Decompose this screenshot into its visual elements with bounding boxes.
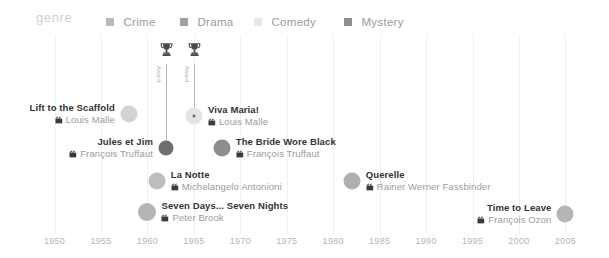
clapperboard-icon: [161, 213, 169, 221]
film-title: Lift to the Scaffold: [29, 102, 114, 114]
x-tick-label: 1995: [462, 236, 483, 246]
film-title: La Notte: [171, 169, 282, 181]
clapperboard-icon: [236, 149, 244, 157]
x-tick-label: 1975: [276, 236, 297, 246]
gridline: [101, 34, 102, 234]
data-point-label: Viva Maria!Louis Malle: [208, 104, 268, 128]
film-director-name: François Truffaut: [80, 148, 153, 159]
film-director-name: Rainer Werner Fassbinder: [377, 181, 491, 192]
film-director-name: Peter Brook: [172, 212, 223, 223]
film-director: Louis Malle: [208, 116, 268, 128]
legend-title: genre: [36, 10, 72, 25]
x-tick-label: 1955: [90, 236, 111, 246]
data-point-label: Time to LeaveFrançois Ozon: [477, 202, 551, 226]
data-point-label: The Bride Wore BlackFrançois Truffaut: [236, 136, 336, 160]
clapperboard-icon: [69, 149, 77, 157]
data-point-label: Jules et JimFrançois Truffaut: [69, 136, 153, 160]
film-director: Peter Brook: [161, 212, 288, 224]
film-director: Louis Malle: [29, 114, 114, 126]
x-tick-label: 2000: [508, 236, 529, 246]
legend-swatch-crime: [106, 18, 114, 26]
x-tick-label: 1960: [137, 236, 158, 246]
trophy-icon: [160, 42, 173, 57]
film-title: The Bride Wore Black: [236, 136, 336, 148]
scatter-plot-area: AwardAward Lift to the ScaffoldLouis Mal…: [0, 34, 609, 234]
gridline: [55, 34, 56, 234]
legend-swatch-comedy: [254, 18, 262, 26]
film-title: Time to Leave: [477, 202, 551, 214]
clapperboard-icon: [208, 117, 216, 125]
x-axis: 1950195519601965197019751980198519901995…: [0, 234, 609, 258]
clapperboard-icon: [366, 182, 374, 190]
data-point-core: [192, 115, 195, 118]
film-director: François Truffaut: [69, 148, 153, 160]
legend-label-comedy: Comedy: [271, 16, 316, 28]
trophy-icon: [188, 42, 201, 57]
data-point-dot[interactable]: [213, 140, 230, 157]
award-label: Award: [184, 66, 190, 83]
award-drop-line: [166, 64, 167, 148]
x-tick-label: 1980: [323, 236, 344, 246]
film-title: Viva Maria!: [208, 104, 268, 116]
film-director-name: François Ozon: [488, 214, 551, 225]
x-tick-label: 1970: [230, 236, 251, 246]
film-director-name: François Truffaut: [247, 148, 320, 159]
award-label: Award: [156, 66, 162, 83]
gridline: [426, 34, 427, 234]
gridline: [333, 34, 334, 234]
x-tick-label: 1950: [44, 236, 65, 246]
legend-label-crime: Crime: [123, 16, 155, 28]
data-point-label: La NotteMichelangelo Antonioni: [171, 169, 282, 193]
data-point-dot[interactable]: [343, 173, 360, 190]
gridline: [380, 34, 381, 234]
data-point-label: Seven Days... Seven NightsPeter Brook: [161, 200, 288, 224]
x-tick-label: 1990: [415, 236, 436, 246]
legend-swatch-drama: [180, 18, 188, 26]
legend-item-drama[interactable]: Drama: [180, 12, 233, 26]
data-point-dot[interactable]: [557, 206, 574, 223]
legend-label-mystery: Mystery: [361, 16, 403, 28]
gridline: [565, 34, 566, 234]
clapperboard-icon: [55, 115, 63, 123]
x-tick-label: 1985: [369, 236, 390, 246]
data-point-dot[interactable]: [148, 173, 165, 190]
clapperboard-icon: [477, 215, 485, 223]
film-director: Rainer Werner Fassbinder: [366, 181, 491, 193]
data-point-core: [165, 147, 168, 150]
x-tick-label: 2005: [555, 236, 576, 246]
x-tick-label: 1965: [183, 236, 204, 246]
legend-item-comedy[interactable]: Comedy: [254, 12, 316, 26]
data-point-label: Lift to the ScaffoldLouis Malle: [29, 102, 114, 126]
clapperboard-icon: [171, 182, 179, 190]
film-director: François Ozon: [477, 214, 551, 226]
film-title: Jules et Jim: [69, 136, 153, 148]
legend-item-crime[interactable]: Crime: [106, 12, 156, 26]
film-director: Michelangelo Antonioni: [171, 181, 282, 193]
data-point-label: QuerelleRainer Werner Fassbinder: [366, 169, 491, 193]
legend-label-drama: Drama: [197, 16, 233, 28]
film-director-name: Louis Malle: [66, 114, 115, 125]
data-point-dot[interactable]: [120, 106, 137, 123]
data-point-dot[interactable]: [138, 203, 156, 221]
legend-item-mystery[interactable]: Mystery: [344, 12, 404, 26]
gridline: [473, 34, 474, 234]
film-director-name: Louis Malle: [219, 116, 268, 127]
film-director: François Truffaut: [236, 148, 336, 160]
film-title: Querelle: [366, 169, 491, 181]
film-director-name: Michelangelo Antonioni: [182, 181, 282, 192]
legend: genre Crime Drama Comedy Mystery: [0, 0, 609, 34]
legend-swatch-mystery: [344, 18, 352, 26]
film-title: Seven Days... Seven Nights: [161, 200, 288, 212]
